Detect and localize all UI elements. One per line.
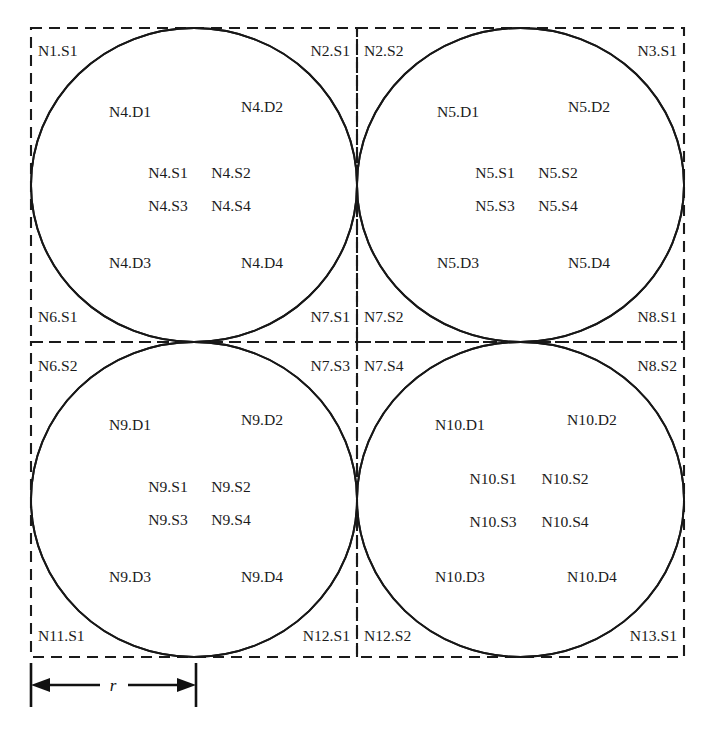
scale-bar: r	[31, 663, 196, 707]
label-star-br-r0c1: N5.S4	[538, 197, 578, 214]
label-star-tr-r0c1: N5.S2	[538, 164, 577, 181]
label-corner-tl-r0c1: N2.S2	[364, 42, 403, 59]
inscribed-circle-r0c1	[357, 28, 684, 342]
label-corner-bl-r0c1: N7.S2	[364, 308, 403, 325]
label-corner-br-r1c0: N12.S1	[303, 627, 350, 644]
cell-boundary-r1c0	[31, 342, 357, 657]
figure-canvas: N1.S1 N2.S1 N6.S1 N7.S1 N4.D1 N4.D2 N4.D…	[0, 0, 713, 738]
label-star-tr-r1c1: N10.S2	[541, 470, 588, 487]
label-petal-tr-r0c1: N5.D2	[568, 98, 610, 115]
label-star-tr-r0c0: N4.S2	[211, 164, 250, 181]
label-corner-tr-r0c1: N3.S1	[638, 42, 677, 59]
inscribed-circle-r0c0	[31, 28, 357, 342]
cell-boundary-r0c1	[357, 28, 684, 342]
cell-boundary-r1c1	[357, 342, 684, 657]
scale-bar-label: r	[110, 676, 117, 695]
label-corner-br-r0c1: N8.S1	[638, 308, 677, 325]
label-star-bl-r0c0: N4.S3	[148, 197, 188, 214]
label-star-tl-r0c0: N4.S1	[148, 164, 187, 181]
inscribed-circle-r1c0	[31, 342, 357, 657]
label-star-tr-r1c0: N9.S2	[211, 478, 250, 495]
label-corner-br-r0c0: N7.S1	[311, 308, 350, 325]
label-corner-tl-r1c0: N6.S2	[38, 357, 77, 374]
label-corner-tr-r1c0: N7.S3	[311, 357, 351, 374]
label-corner-tl-r0c0: N1.S1	[38, 42, 77, 59]
label-star-br-r0c0: N4.S4	[211, 197, 251, 214]
label-petal-tr-r1c0: N9.D2	[241, 411, 283, 428]
cell-r0c0: N1.S1 N2.S1 N6.S1 N7.S1 N4.D1 N4.D2 N4.D…	[31, 28, 357, 342]
label-star-br-r1c0: N9.S4	[211, 511, 251, 528]
label-star-bl-r1c1: N10.S3	[469, 513, 516, 530]
label-petal-bl-r1c0: N9.D3	[109, 568, 151, 585]
label-petal-tr-r0c0: N4.D2	[241, 98, 283, 115]
label-corner-tr-r1c1: N8.S2	[638, 357, 677, 374]
label-corner-tl-r1c1: N7.S4	[364, 357, 404, 374]
label-petal-tl-r1c0: N9.D1	[109, 416, 151, 433]
cell-r1c1: N7.S4 N8.S2 N12.S2 N13.S1 N10.D1 N10.D2 …	[357, 342, 684, 657]
label-corner-bl-r1c1: N12.S2	[364, 627, 411, 644]
label-star-tl-r1c1: N10.S1	[469, 470, 516, 487]
label-star-bl-r0c1: N5.S3	[475, 197, 515, 214]
label-petal-tl-r0c1: N5.D1	[437, 103, 479, 120]
label-petal-br-r1c0: N9.D4	[241, 568, 283, 585]
label-petal-br-r0c1: N5.D4	[568, 254, 610, 271]
label-petal-tr-r1c1: N10.D2	[567, 411, 617, 428]
label-corner-bl-r1c0: N11.S1	[38, 627, 85, 644]
label-star-bl-r1c0: N9.S3	[148, 511, 188, 528]
cell-r1c0: N6.S2 N7.S3 N11.S1 N12.S1 N9.D1 N9.D2 N9…	[31, 342, 357, 657]
label-corner-br-r1c1: N13.S1	[630, 627, 677, 644]
label-star-tl-r1c0: N9.S1	[148, 478, 187, 495]
label-petal-bl-r0c0: N4.D3	[109, 254, 151, 271]
label-corner-bl-r0c0: N6.S1	[38, 308, 77, 325]
tiling-diagram: N1.S1 N2.S1 N6.S1 N7.S1 N4.D1 N4.D2 N4.D…	[0, 0, 713, 738]
cell-boundary-r0c0	[31, 28, 357, 342]
label-petal-bl-r1c1: N10.D3	[435, 568, 485, 585]
label-petal-br-r0c0: N4.D4	[241, 254, 283, 271]
label-star-tl-r0c1: N5.S1	[475, 164, 514, 181]
label-corner-tr-r0c0: N2.S1	[311, 42, 350, 59]
label-petal-bl-r0c1: N5.D3	[437, 254, 479, 271]
label-petal-tl-r1c1: N10.D1	[435, 416, 485, 433]
scale-arrowhead-left	[31, 678, 50, 692]
cell-r0c1: N2.S2 N3.S1 N7.S2 N8.S1 N5.D1 N5.D2 N5.D…	[357, 28, 684, 342]
scale-arrowhead-right	[177, 678, 196, 692]
label-petal-tl-r0c0: N4.D1	[109, 103, 151, 120]
inscribed-circle-r1c1	[357, 342, 684, 657]
label-petal-br-r1c1: N10.D4	[567, 568, 617, 585]
label-star-br-r1c1: N10.S4	[541, 513, 588, 530]
